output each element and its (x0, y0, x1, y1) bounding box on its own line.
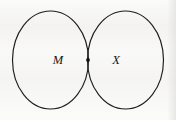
intersection-element-dot (86, 58, 90, 62)
set-label-x: X (111, 53, 121, 67)
venn-diagram-figure: M X (0, 0, 176, 120)
set-circle-x (88, 11, 164, 109)
set-label-m: M (52, 53, 64, 67)
set-circle-m (13, 11, 89, 109)
venn-diagram-svg: M X (0, 0, 176, 120)
